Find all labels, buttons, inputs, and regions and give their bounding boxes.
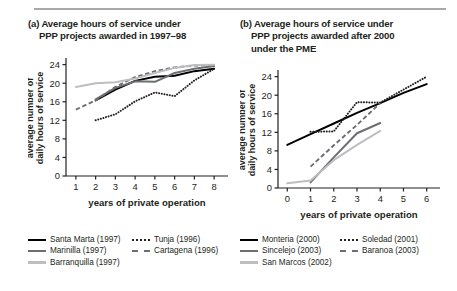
series-line-barranquilla-1997	[76, 65, 214, 87]
line-swatch-icon	[132, 236, 150, 244]
y-axis-tick-label: 8	[55, 133, 60, 144]
panel-b-title-line1: (b) Average hours of service under	[240, 18, 393, 29]
x-axis-tick-label: 0	[285, 193, 290, 204]
legend-panel-a: Santa Marta (1997) Tunja (1996) Marinill…	[28, 234, 250, 268]
panel-b-plot-wrap: 048121620240123456years of private opera…	[240, 66, 457, 222]
line-swatch-icon	[240, 258, 258, 266]
legend-item-barranquilla: Barranquilla (1997)	[28, 257, 132, 268]
legend-row: Barranquilla (1997)	[28, 257, 250, 268]
x-axis-tick-label: 8	[212, 181, 217, 192]
x-axis-tick-label: 2	[331, 193, 336, 204]
y-axis-tick-label: 16	[262, 108, 272, 119]
line-swatch-icon	[28, 236, 46, 244]
legend-item-san-marcos: San Marcos (2002)	[240, 257, 340, 268]
legend-item-tunja: Tunja (1996)	[132, 234, 200, 245]
x-axis-tick-label: 6	[424, 193, 429, 204]
panel-b-title-line2: PPP projects awarded after 2000	[240, 30, 457, 42]
y-axis-tick-label: 4	[267, 164, 272, 175]
line-swatch-icon	[340, 236, 358, 244]
legend-label: Barranquilla (1997)	[50, 257, 120, 268]
legend-row: Monteria (2000) Soledad (2001)	[240, 234, 457, 245]
line-swatch-icon	[28, 247, 46, 255]
legend-label: Soledad (2001)	[362, 234, 418, 245]
y-axis-tick-label: 20	[50, 78, 60, 89]
line-swatch-icon	[240, 236, 258, 244]
y-axis-tick-label: 12	[50, 115, 60, 126]
legend-item-marinilla: Marinilla (1997)	[28, 245, 132, 256]
x-axis-title: years of private operation	[88, 197, 205, 208]
panel-a-plot-wrap: 0481216202412345678years of private oper…	[28, 54, 250, 222]
legend-row: Marinilla (1997) Cartagena (1996)	[28, 245, 250, 256]
y-axis-tick-label: 20	[262, 90, 272, 101]
legend-label: Sincelejo (2003)	[262, 245, 321, 256]
line-swatch-icon	[240, 247, 258, 255]
legend-item-sincelejo: Sincelejo (2003)	[240, 245, 340, 256]
line-swatch-icon	[28, 258, 46, 266]
series-line-monteria-2000	[287, 84, 426, 145]
legend-label: Baranoa (2003)	[362, 245, 419, 256]
legend-item-baranoa: Baranoa (2003)	[340, 245, 419, 256]
x-axis-tick-label: 4	[133, 181, 138, 192]
x-axis-tick-label: 1	[308, 193, 313, 204]
x-axis-tick-label: 2	[93, 181, 98, 192]
panel-a-title: (a) Average hours of service under PPP p…	[28, 18, 250, 43]
legend-label: Santa Marta (1997)	[50, 234, 121, 245]
x-axis-tick-label: 3	[354, 193, 359, 204]
legend-panel-b: Monteria (2000) Soledad (2001) Sincelejo…	[240, 234, 457, 268]
x-axis-title: years of private operation	[300, 209, 417, 220]
x-axis-tick-label: 1	[73, 181, 78, 192]
legend-label: San Marcos (2002)	[262, 257, 332, 268]
y-axis-tick-label: 16	[50, 96, 60, 107]
legend-label: Cartagena (1996)	[154, 245, 218, 256]
y-axis-tick-label: 0	[267, 182, 272, 193]
panel-a-title-line2: PPP projects awarded in 1997–98	[28, 30, 250, 42]
line-swatch-icon	[132, 247, 150, 255]
legend-row: San Marcos (2002)	[240, 257, 457, 268]
panel-a-chart: 0481216202412345678years of private oper…	[28, 54, 250, 222]
top-divider-rule	[34, 8, 446, 10]
x-axis-tick-label: 5	[401, 193, 406, 204]
line-swatch-icon	[340, 247, 358, 255]
x-axis-tick-label: 6	[172, 181, 177, 192]
legend-item-santa-marta: Santa Marta (1997)	[28, 234, 132, 245]
figure-container: (a) Average hours of service under PPP p…	[0, 0, 457, 291]
legend-item-monteria: Monteria (2000)	[240, 234, 340, 245]
legend-label: Marinilla (1997)	[50, 245, 106, 256]
y-axis-title-line: average number of	[240, 89, 247, 171]
y-axis-title-line: daily hours of service	[247, 84, 257, 177]
y-axis-title-line: average number of	[28, 77, 35, 159]
legend-label: Monteria (2000)	[262, 234, 320, 245]
y-axis-tick-label: 0	[55, 170, 60, 181]
y-axis-tick-label: 24	[262, 71, 272, 82]
legend-label: Tunja (1996)	[154, 234, 200, 245]
x-axis-tick-label: 4	[378, 193, 383, 204]
panel-a-title-line1: (a) Average hours of service under	[28, 18, 181, 29]
x-axis-tick-label: 7	[192, 181, 197, 192]
series-line-baranoa-2003	[311, 103, 381, 167]
y-axis-title-line: daily hours of service	[35, 72, 45, 165]
y-axis-tick-label: 4	[55, 152, 60, 163]
legend-item-cartagena: Cartagena (1996)	[132, 245, 218, 256]
y-axis-tick-label: 12	[262, 127, 272, 138]
x-axis-tick-label: 5	[152, 181, 157, 192]
series-line-soledad-2001	[311, 77, 427, 132]
legend-row: Sincelejo (2003) Baranoa (2003)	[240, 245, 457, 256]
legend-item-soledad: Soledad (2001)	[340, 234, 418, 245]
legend-row: Santa Marta (1997) Tunja (1996)	[28, 234, 250, 245]
y-axis-tick-label: 8	[267, 145, 272, 156]
panel-b-title: (b) Average hours of service under PPP p…	[240, 18, 457, 55]
y-axis-tick-label: 24	[50, 59, 60, 70]
panel-b-title-line3: under the PME	[240, 43, 457, 55]
panel-b-chart: 048121620240123456years of private opera…	[240, 66, 457, 222]
x-axis-tick-label: 3	[113, 181, 118, 192]
